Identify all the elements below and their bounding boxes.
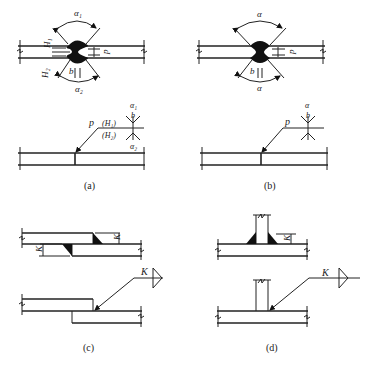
label-H1: H₁ bbox=[42, 38, 52, 49]
panel-d bbox=[215, 214, 360, 327]
panel-b bbox=[196, 21, 328, 170]
symbol-alpha1: α₁ bbox=[130, 101, 137, 110]
welding-symbols-figure: α₁ α₂ H₁ H₂ b p p (H₁) (H₂) α₁ b α₂ (a) bbox=[0, 0, 376, 368]
label-alpha1-top: α₁ bbox=[74, 8, 82, 18]
label-alpha2-bottom: α₂ bbox=[75, 84, 83, 94]
symbol-p: p bbox=[88, 117, 94, 128]
symbol-K: K bbox=[321, 267, 330, 278]
label-alpha-bottom: α bbox=[257, 83, 262, 93]
label-K: K bbox=[282, 234, 292, 242]
symbol-b: b bbox=[131, 111, 135, 120]
panel-c-labels: K K K (c) bbox=[34, 233, 149, 354]
label-b: b bbox=[250, 66, 255, 76]
figure-svg: α₁ α₂ H₁ H₂ b p p (H₁) (H₂) α₁ b α₂ (a) bbox=[0, 0, 376, 368]
caption-d: (d) bbox=[266, 342, 278, 354]
label-K-top: K bbox=[112, 233, 122, 241]
panel-a bbox=[17, 21, 147, 170]
symbol-alpha2: α₂ bbox=[130, 142, 137, 151]
label-b: b bbox=[69, 66, 74, 76]
panel-d-labels: K K (d) bbox=[266, 234, 330, 354]
symbol-p: p bbox=[284, 116, 290, 127]
caption-b: (b) bbox=[264, 180, 276, 192]
label-K-bottom: K bbox=[34, 245, 44, 253]
symbol-H1: (H₁) bbox=[102, 119, 116, 128]
symbol-K: K bbox=[140, 266, 149, 277]
label-H2: H₂ bbox=[40, 68, 50, 79]
caption-a: (a) bbox=[84, 180, 95, 192]
symbol-b: b bbox=[306, 111, 310, 120]
symbol-H2: (H₂) bbox=[102, 131, 116, 140]
label-p: p bbox=[100, 49, 110, 55]
caption-c: (c) bbox=[83, 342, 94, 354]
label-p: p bbox=[286, 49, 296, 55]
label-alpha-top: α bbox=[257, 9, 262, 19]
symbol-alpha: α bbox=[305, 101, 310, 110]
panel-c bbox=[19, 228, 163, 327]
